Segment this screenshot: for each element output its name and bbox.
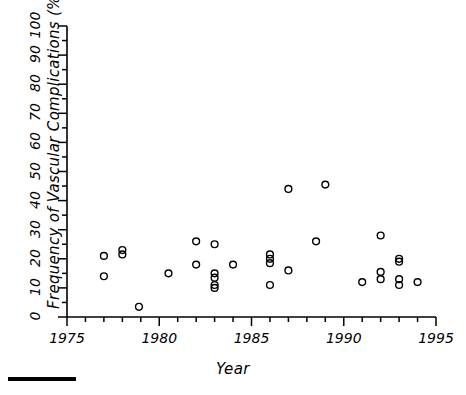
y-axis-label: Frequency of Vascular Complications (%) [45,9,63,309]
data-point [230,261,237,268]
x-tick-label: 1985 [222,330,282,346]
x-tick-label: 1975 [37,330,97,346]
x-tick-label: 1995 [406,330,466,346]
data-point [414,279,421,286]
x-tick-label: 1990 [314,330,374,346]
data-point [101,252,108,259]
data-point [119,251,126,258]
data-point [285,186,292,193]
data-point [285,267,292,274]
scale-bar [8,377,76,381]
axis-lines [67,26,436,317]
data-point [193,261,200,268]
y-tick-label: 100 [27,5,43,45]
data-point [313,238,320,245]
data-point [193,238,200,245]
x-axis-ticks [67,317,436,326]
data-point [136,303,143,310]
x-tick-label: 1980 [129,330,189,346]
data-point [359,279,366,286]
data-point [322,181,329,188]
scatter-plot-figure: Frequency of Vascular Complications (%) … [0,0,466,395]
data-point [267,260,274,267]
data-point [377,232,384,239]
x-axis-label: Year [0,360,466,378]
data-point [377,268,384,275]
data-point [211,241,218,248]
data-markers [101,181,421,310]
data-point [377,276,384,283]
data-point [267,282,274,289]
data-point [101,273,108,280]
data-point [165,270,172,277]
data-point [211,274,218,281]
